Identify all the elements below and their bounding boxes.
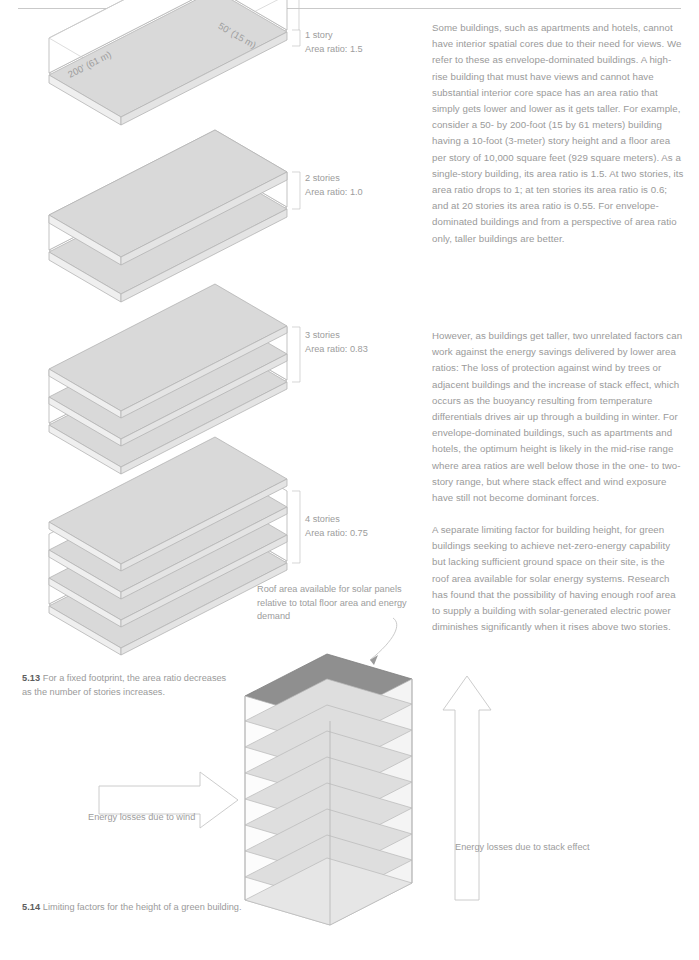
book-page: 200' (61 m) 50' (15 m) 1 story Area rati… [0,0,699,960]
block-stories-2: 2 stories [305,172,363,186]
figure-caption-514: 5.14 Limiting factors for the height of … [22,901,282,915]
block-ratio-4: Area ratio: 0.75 [305,527,368,541]
block-ratio-1: Area ratio: 1.5 [305,43,363,57]
figure-caption-text-513: For a fixed footprint, the area ratio de… [22,673,226,697]
figure-caption-text-514: Limiting factors for the height of a gre… [43,902,242,912]
stack-effect-arrow [443,676,491,900]
figure-number-514: 5.14 [22,902,40,912]
massing-block-2-stories [49,130,300,302]
block-label-1-story: 1 story Area ratio: 1.5 [305,29,363,56]
block-label-3-stories: 3 stories Area ratio: 0.83 [305,329,368,356]
roof-note-leader [370,618,397,660]
figure-number-513: 5.13 [22,673,40,683]
stack-loss-label: Energy losses due to stack effect [455,842,590,852]
body-paragraph-2: However, as buildings get taller, two un… [432,328,684,506]
massing-block-3-stories [49,284,300,474]
block-label-2-stories: 2 stories Area ratio: 1.0 [305,172,363,199]
block-stories-1: 1 story [305,29,363,43]
block-ratio-3: Area ratio: 0.83 [305,343,368,357]
tower-massing-block [245,654,412,925]
wind-loss-label: Energy losses due to wind [88,812,195,822]
block-ratio-2: Area ratio: 1.0 [305,186,363,200]
block-label-4-stories: 4 stories Area ratio: 0.75 [305,513,368,540]
roof-area-note: Roof area available for solar panels rel… [257,583,407,624]
block-stories-3: 3 stories [305,329,368,343]
block-stories-4: 4 stories [305,513,368,527]
body-paragraph-1: Some buildings, such as apartments and h… [432,20,684,247]
body-paragraph-3: A separate limiting factor for building … [432,522,684,635]
figure-caption-513: 5.13 For a fixed footprint, the area rat… [22,672,232,699]
